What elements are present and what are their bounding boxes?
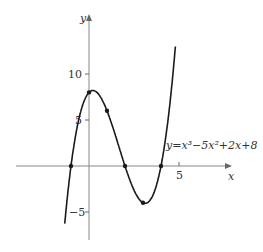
y-tick-label-neg5: −5 <box>69 206 85 219</box>
y-axis-arrow-icon <box>86 14 92 21</box>
data-point <box>141 201 145 205</box>
y-axis-label: y <box>79 12 87 25</box>
y-tick-label-10: 10 <box>68 68 82 81</box>
data-point <box>123 164 127 168</box>
x-axis-label: x <box>228 170 235 183</box>
data-point <box>105 109 109 113</box>
data-point <box>87 90 91 94</box>
data-point <box>69 164 73 168</box>
data-point <box>159 164 163 168</box>
x-axis-arrow-icon <box>225 163 232 169</box>
curve-equation-label: y=x³−5x²+2x+8 <box>165 139 258 152</box>
x-tick-label-5: 5 <box>176 169 183 182</box>
chart: 5 10 5 −5 x y y=x³−5x²+2x+8 <box>0 0 263 252</box>
marked-points <box>69 90 163 205</box>
